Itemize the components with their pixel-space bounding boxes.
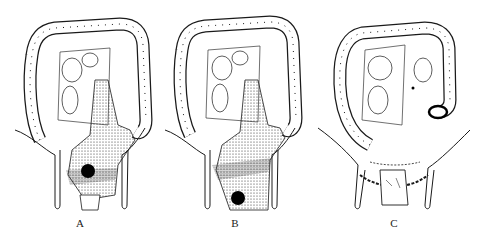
colon-illustration-c (310, 0, 480, 244)
colon-illustration-b (160, 0, 320, 244)
stoma (429, 106, 447, 118)
panel-label-a: A (70, 217, 90, 229)
panel-c: C (310, 0, 480, 244)
panel-b: B (160, 0, 320, 244)
panel-label-c: C (384, 217, 404, 229)
tumor (81, 164, 95, 178)
panel-a: A (0, 0, 160, 244)
colon-illustration-a (0, 0, 160, 244)
tumor (231, 191, 245, 205)
panel-label-b: B (225, 217, 245, 229)
